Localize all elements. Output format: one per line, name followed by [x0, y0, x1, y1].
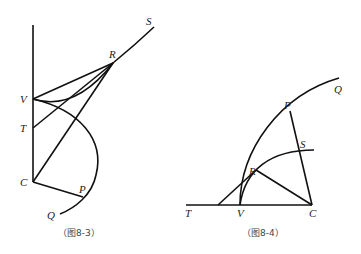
label-c: C — [20, 176, 28, 188]
line-c-p — [33, 182, 83, 197]
figure-8-3: S R V T C P Q （图8-3） — [20, 15, 154, 238]
label-v: V — [237, 207, 245, 219]
label-t: T — [20, 122, 27, 134]
label-s: S — [146, 15, 152, 27]
figure-8-4: Q P S R T V C （图8-4） — [185, 78, 342, 238]
label-s: S — [300, 138, 306, 150]
label-q: Q — [47, 209, 55, 221]
label-p: P — [78, 183, 86, 195]
label-t: T — [185, 207, 192, 219]
label-r: R — [248, 165, 256, 177]
line-t-r — [33, 63, 113, 128]
label-q: Q — [334, 83, 342, 95]
label-p: P — [283, 99, 291, 111]
curve-v-p-q — [240, 78, 339, 205]
curve-r-s — [240, 150, 314, 205]
label-r: R — [108, 48, 116, 60]
caption-8-3: （图8-3） — [58, 228, 100, 238]
caption-8-4: （图8-4） — [242, 228, 284, 238]
diagram-canvas: S R V T C P Q （图8-3） Q P S R T V C （图8-4… — [0, 0, 361, 254]
line-r-c — [256, 170, 312, 205]
spiral-curve-v-p-q — [33, 99, 98, 214]
label-c: C — [309, 207, 317, 219]
line-p-c — [290, 111, 312, 205]
label-v: V — [20, 93, 28, 105]
